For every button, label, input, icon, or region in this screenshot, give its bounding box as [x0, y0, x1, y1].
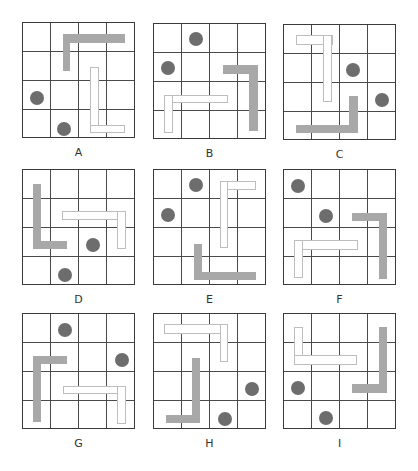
light-l-shape-segment	[220, 181, 229, 247]
option-label: A	[22, 146, 135, 159]
option-label: F	[283, 293, 396, 306]
dark-l-shape-segment	[192, 358, 200, 424]
grid-line-horizontal	[23, 256, 134, 257]
dark-l-shape-segment	[33, 184, 41, 250]
circle-dot-icon	[245, 382, 259, 396]
dark-l-shape-segment	[379, 213, 387, 279]
option-label: C	[283, 148, 396, 161]
circle-dot-icon	[319, 411, 333, 425]
option-panel-i[interactable]: I	[283, 313, 396, 429]
circle-dot-icon	[30, 91, 44, 105]
grid-line-horizontal	[154, 256, 265, 257]
light-l-shape-segment	[90, 67, 98, 133]
circle-dot-icon	[115, 353, 129, 367]
option-label: H	[153, 437, 266, 450]
dark-l-shape-segment	[352, 384, 387, 393]
circle-dot-icon	[58, 268, 72, 282]
light-l-shape-segment	[164, 95, 228, 104]
option-panel-c[interactable]: C	[283, 24, 396, 140]
dark-l-shape-segment	[296, 125, 358, 133]
grid-line-horizontal	[154, 400, 265, 401]
grid-line-vertical	[367, 314, 368, 428]
dark-l-shape-segment	[33, 356, 41, 422]
circle-dot-icon	[319, 209, 333, 223]
dark-l-shape-segment	[249, 65, 257, 131]
option-panel-h[interactable]: H	[153, 313, 266, 429]
grid-4x4	[153, 313, 266, 429]
option-label: G	[22, 437, 135, 450]
grid-4x4	[22, 313, 135, 429]
dark-l-shape-segment	[63, 34, 71, 70]
light-l-shape-segment	[294, 240, 303, 278]
option-panel-e[interactable]: E	[153, 169, 266, 285]
option-label: E	[153, 293, 266, 306]
circle-dot-icon	[189, 32, 203, 46]
option-panel-b[interactable]: B	[153, 23, 266, 139]
circle-dot-icon	[86, 238, 100, 252]
light-l-shape-segment	[117, 386, 126, 424]
option-panel-f[interactable]: F	[283, 169, 396, 285]
grid-line-vertical	[106, 314, 107, 428]
grid-line-vertical	[367, 25, 368, 139]
circle-dot-icon	[57, 122, 71, 136]
grid-line-vertical	[367, 170, 368, 284]
dark-l-shape-segment	[33, 241, 67, 249]
grid-line-horizontal	[284, 111, 395, 112]
option-panel-g[interactable]: G	[22, 313, 135, 429]
grid-line-horizontal	[284, 400, 395, 401]
grid-line-horizontal	[154, 371, 265, 372]
circle-dot-icon	[346, 63, 360, 77]
dark-l-shape-segment	[63, 34, 125, 43]
light-l-shape-segment	[294, 240, 358, 250]
grid-4x4	[283, 169, 396, 285]
option-label: D	[22, 293, 135, 306]
light-l-shape-segment	[220, 324, 229, 362]
grid-line-horizontal	[23, 80, 134, 81]
grid-line-horizontal	[23, 109, 134, 110]
grid-4x4	[153, 23, 266, 139]
circle-dot-icon	[291, 381, 305, 395]
option-label: B	[153, 147, 266, 160]
dark-l-shape-segment	[379, 327, 387, 394]
option-panel-a[interactable]: A	[22, 22, 135, 138]
grid-4x4	[22, 169, 135, 285]
light-l-shape-segment	[117, 211, 126, 249]
grid-line-vertical	[237, 24, 238, 138]
light-l-shape-segment	[323, 35, 332, 102]
grid-4x4	[22, 22, 135, 138]
circle-dot-icon	[291, 179, 305, 193]
grid-line-horizontal	[284, 82, 395, 83]
light-l-shape-segment	[164, 95, 172, 133]
dark-l-shape-segment	[166, 415, 200, 423]
light-l-shape-segment	[90, 125, 125, 133]
circle-dot-icon	[189, 178, 203, 192]
grid-line-vertical	[237, 314, 238, 428]
grid-4x4	[153, 169, 266, 285]
light-l-shape-segment	[294, 355, 357, 364]
grid-line-vertical	[106, 170, 107, 284]
option-panel-d[interactable]: D	[22, 169, 135, 285]
grid-line-horizontal	[154, 227, 265, 228]
dark-l-shape-segment	[194, 272, 256, 280]
grid-4x4	[283, 313, 396, 429]
circle-dot-icon	[218, 412, 232, 426]
option-label: I	[283, 437, 396, 450]
circle-dot-icon	[375, 93, 389, 107]
circle-dot-icon	[161, 208, 175, 222]
grid-4x4	[283, 24, 396, 140]
circle-dot-icon	[161, 61, 175, 75]
circle-dot-icon	[58, 323, 72, 337]
